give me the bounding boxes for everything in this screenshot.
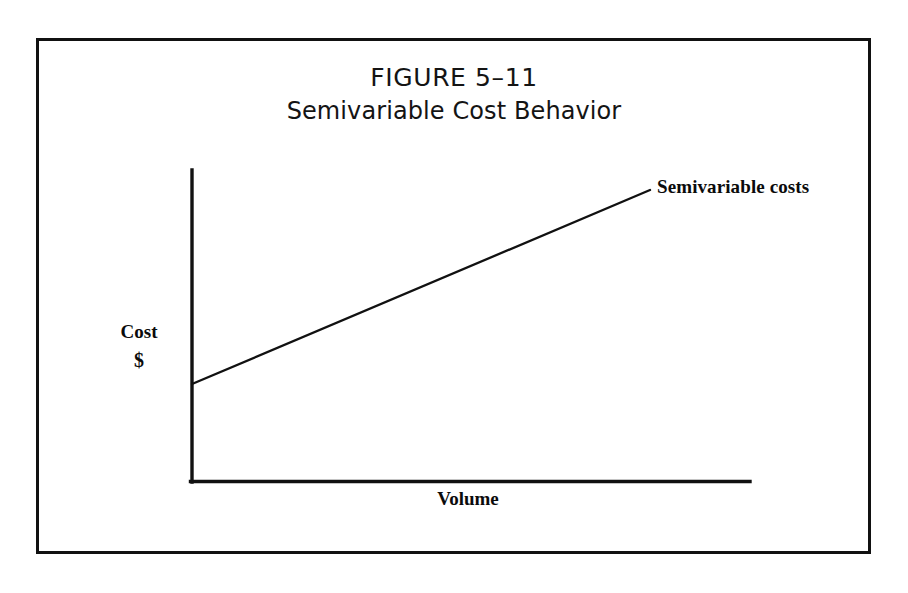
y-axis-label-line1: Cost (121, 321, 158, 342)
y-axis-label-currency: $ (96, 346, 182, 375)
semivariable-cost-line (192, 190, 650, 384)
figure-root: FIGURE 5–11 Semivariable Cost Behavior C… (0, 0, 908, 593)
series-label-semivariable-costs: Semivariable costs (657, 176, 809, 198)
x-axis-label: Volume (400, 488, 536, 510)
y-axis-label: Cost $ (96, 317, 182, 375)
